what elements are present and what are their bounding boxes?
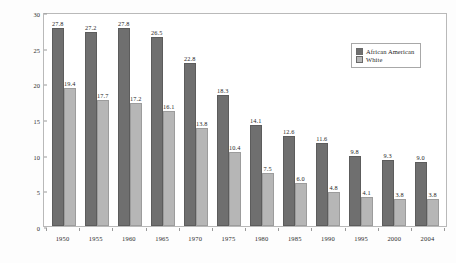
bar-group: 14.17.5 — [245, 14, 278, 226]
bar — [151, 37, 163, 226]
bar-group: 22.813.8 — [179, 14, 212, 226]
y-axis-tick-label: 0 — [37, 225, 40, 232]
bar-slot: 10.4 — [229, 14, 241, 226]
legend-label: White — [366, 56, 382, 63]
x-axis-tick-mark — [79, 228, 80, 231]
bar — [85, 32, 97, 226]
x-axis-tick-mark — [311, 228, 312, 231]
x-axis-tick-label: 1950 — [46, 228, 79, 242]
x-axis-tick-mark — [278, 228, 279, 231]
bar — [97, 100, 109, 226]
bar — [196, 128, 208, 226]
bar — [382, 160, 394, 226]
x-axis: 1950195519601965197019751980198519901995… — [43, 228, 447, 250]
x-axis-tick-mark — [146, 228, 147, 231]
bar — [229, 152, 241, 226]
bar — [328, 192, 340, 226]
bar-value-label: 27.8 — [52, 20, 63, 27]
bar-slot: 6.0 — [295, 14, 307, 226]
bar-slot: 22.8 — [184, 14, 196, 226]
bar-value-label: 9.0 — [417, 154, 425, 161]
bar-value-label: 16.1 — [163, 103, 174, 110]
y-axis-tick-label: 15 — [34, 118, 40, 125]
y-axis-tick-label: 5 — [37, 189, 40, 196]
bar-slot: 19.4 — [64, 14, 76, 226]
bar-slot: 13.8 — [196, 14, 208, 226]
bar-value-label: 17.2 — [130, 95, 141, 102]
bar-value-label: 4.1 — [363, 189, 371, 196]
x-axis-tick-mark — [212, 228, 213, 231]
bar-slot: 18.3 — [217, 14, 229, 226]
bar-group: 18.310.4 — [212, 14, 245, 226]
y-axis-tick-label: 20 — [34, 82, 40, 89]
legend-swatch-icon — [356, 48, 363, 55]
bar-value-label: 10.4 — [229, 144, 240, 151]
bar-slot: 27.8 — [118, 14, 130, 226]
bar — [361, 197, 373, 226]
bar-group: 26.516.1 — [146, 14, 179, 226]
x-axis-tick-mark — [112, 228, 113, 231]
x-axis-tick-label: 2004 — [411, 228, 444, 242]
bar — [394, 199, 406, 226]
legend-label: African American — [366, 48, 414, 55]
x-axis-tick-mark — [46, 228, 47, 231]
bar-slot: 17.7 — [97, 14, 109, 226]
plot-area: Deaths per 1,000 Live Births 05101520253… — [43, 13, 447, 227]
bar-slot: 7.5 — [262, 14, 274, 226]
y-axis-tick-label: 25 — [34, 46, 40, 53]
bar-value-label: 18.3 — [217, 87, 228, 94]
bar-group: 12.66.0 — [278, 14, 311, 226]
bar-slot: 27.8 — [52, 14, 64, 226]
x-axis-tick-mark — [411, 228, 412, 231]
bar-slot: 3.8 — [427, 14, 439, 226]
bar-slot: 11.6 — [316, 14, 328, 226]
bar-value-label: 13.8 — [196, 120, 207, 127]
bar-value-label: 4.8 — [330, 184, 338, 191]
legend-item: White — [356, 56, 414, 63]
bar — [295, 183, 307, 226]
bar-value-label: 3.8 — [396, 191, 404, 198]
x-axis-tick-label: 1975 — [212, 228, 245, 242]
x-axis-tick-mark — [444, 228, 445, 231]
x-axis-tick-label: 1965 — [146, 228, 179, 242]
bar-slot: 14.1 — [250, 14, 262, 226]
x-axis-tick-label: 2000 — [378, 228, 411, 242]
bar-slot: 16.1 — [163, 14, 175, 226]
x-axis-tick-label: 1970 — [179, 228, 212, 242]
bar-value-label: 27.2 — [85, 24, 96, 31]
legend-swatch-icon — [356, 56, 363, 63]
chart-figure: Deaths per 1,000 Live Births 05101520253… — [0, 0, 456, 263]
bar-slot: 17.2 — [130, 14, 142, 226]
bar-group: 27.817.2 — [113, 14, 146, 226]
bar-slot: 4.8 — [328, 14, 340, 226]
legend-item: African American — [356, 48, 414, 55]
y-axis-tick-label: 30 — [34, 11, 40, 18]
bar — [184, 63, 196, 226]
bar-value-label: 22.8 — [184, 55, 195, 62]
x-axis-tick-label: 1955 — [79, 228, 112, 242]
bar — [415, 162, 427, 226]
bar-value-label: 14.1 — [250, 117, 261, 124]
bar — [217, 95, 229, 226]
x-axis-tick-mark — [245, 228, 246, 231]
x-axis-tick-mark — [378, 228, 379, 231]
bar-value-label: 26.5 — [151, 29, 162, 36]
bar-slot: 26.5 — [151, 14, 163, 226]
x-axis-tick-label: 1985 — [278, 228, 311, 242]
bar-value-label: 9.8 — [351, 148, 359, 155]
bar-value-label: 12.6 — [283, 128, 294, 135]
bar — [283, 136, 295, 226]
chart-legend: African AmericanWhite — [351, 43, 421, 68]
bar-value-label: 6.0 — [297, 175, 305, 182]
x-axis-tick-label: 1960 — [112, 228, 145, 242]
x-axis-tick-label: 1995 — [345, 228, 378, 242]
bar-group: 11.64.8 — [311, 14, 344, 226]
bar-value-label: 7.5 — [264, 165, 272, 172]
bar-group: 27.217.7 — [80, 14, 113, 226]
bar — [163, 111, 175, 226]
bar-slot: 12.6 — [283, 14, 295, 226]
bar-value-label: 17.7 — [97, 92, 108, 99]
bar-value-label: 3.8 — [429, 191, 437, 198]
bar-value-label: 27.8 — [118, 20, 129, 27]
bar — [250, 125, 262, 226]
